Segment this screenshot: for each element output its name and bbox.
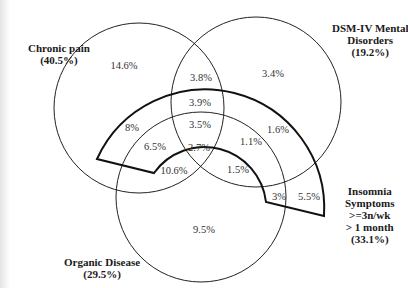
region-dsm-organic: 1.5% <box>227 164 249 175</box>
chronic-pain-pct: (40.5%) <box>28 54 90 66</box>
region-organic-only: 9.5% <box>193 224 215 235</box>
region-pain-dsm-insomnia: 3.9% <box>189 97 211 108</box>
organic-disease-label: Organic Disease (29.5%) <box>64 256 140 280</box>
region-insomnia-only: 5.5% <box>298 191 320 202</box>
region-pain-only: 14.6% <box>110 60 137 71</box>
region-pain-insomnia: 8% <box>125 122 139 133</box>
region-pain-dsm: 3.8% <box>190 72 212 83</box>
insomnia-line3: >=3n/wk <box>345 209 395 221</box>
organic-pct: (29.5%) <box>64 268 140 280</box>
insomnia-pct: (33.1%) <box>345 233 395 245</box>
insomnia-label: Insomnia Symptoms >=3n/wk > 1 month (33.… <box>345 185 395 245</box>
region-dsm-insomnia: 1.6% <box>267 124 289 135</box>
insomnia-line4: > 1 month <box>345 221 395 233</box>
chronic-pain-label: Chronic pain (40.5%) <box>28 42 90 66</box>
dsm-label: DSM-IV Mental Disorders (19.2%) <box>332 22 408 58</box>
insomnia-band <box>97 89 324 216</box>
dsm-pct: (19.2%) <box>332 46 408 58</box>
region-pain-dsm-organic: 2.7% <box>188 142 210 153</box>
region-dsm-only: 3.4% <box>262 68 284 79</box>
insomnia-line1: Insomnia <box>345 185 395 197</box>
insomnia-line2: Symptoms <box>345 197 395 209</box>
region-organic-insomnia: 3% <box>272 191 286 202</box>
region-pain-organic: 10.6% <box>160 165 187 176</box>
region-all-four: 3.5% <box>189 119 211 130</box>
organic-name: Organic Disease <box>64 256 140 268</box>
region-pain-organic-insomnia: 6.5% <box>144 141 166 152</box>
chronic-pain-name: Chronic pain <box>28 42 90 54</box>
region-dsm-organic-insomnia: 1.1% <box>240 136 262 147</box>
dsm-name-2: Disorders <box>332 34 408 46</box>
dsm-name-1: DSM-IV Mental <box>332 22 408 34</box>
